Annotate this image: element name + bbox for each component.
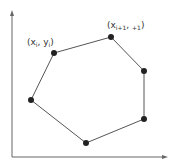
- y-axis-arrow-icon: [10, 10, 14, 16]
- vertex-point: [51, 50, 57, 56]
- polygon-vertices: [28, 34, 147, 146]
- vertex-point: [28, 97, 34, 103]
- polygon-edges: [31, 37, 144, 143]
- vertex-point: [141, 68, 147, 74]
- vertex-label-i-plus-1: (xi+1, +1): [107, 20, 144, 31]
- x-axis-arrow-icon: [162, 155, 168, 159]
- vertex-point: [108, 34, 114, 40]
- vertex-point: [83, 140, 89, 146]
- polygon-diagram: [0, 0, 173, 166]
- vertex-label-i: (xi, yi): [27, 37, 54, 48]
- vertex-point: [141, 116, 147, 122]
